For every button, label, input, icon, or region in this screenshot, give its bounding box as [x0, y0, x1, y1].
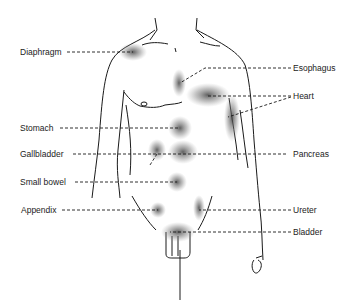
label-bladder: Bladder: [293, 227, 322, 237]
label-heart: Heart: [293, 91, 314, 101]
label-ureter: Ureter: [293, 205, 317, 215]
label-gallbladder: Gallbladder: [20, 149, 63, 159]
label-appendix: Appendix: [21, 205, 56, 215]
referred-pain-diagram: Diaphragm Stomach Gallbladder Small bowe…: [0, 0, 357, 307]
region-heart-arm: [224, 94, 240, 142]
region-pancreas: [168, 140, 198, 164]
leader-esophagus: [180, 68, 291, 83]
region-esophagus: [172, 69, 186, 97]
label-stomach: Stomach: [20, 123, 54, 133]
label-small-bowel: Small bowel: [20, 177, 66, 187]
label-esophagus: Esophagus: [293, 63, 336, 73]
region-gallbladder: [148, 139, 166, 161]
region-ureter: [193, 195, 205, 221]
pain-regions: [119, 43, 240, 242]
label-pancreas: Pancreas: [293, 149, 329, 159]
label-diaphragm: Diaphragm: [20, 47, 62, 57]
region-heart: [186, 83, 230, 107]
